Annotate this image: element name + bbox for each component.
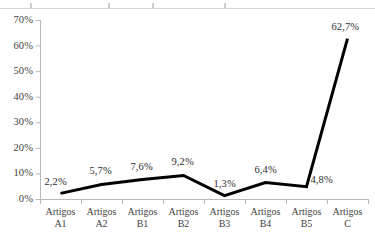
y-axis-tick-label: 50% (0, 65, 33, 76)
x-axis-category-label: ArtigosB4 (245, 206, 286, 229)
data-point-label: 4,8% (311, 174, 333, 185)
x-axis-category-label: ArtigosB2 (163, 206, 204, 229)
x-axis-category-label: ArtigosB5 (286, 206, 327, 229)
x-axis-category-label: ArtigosA1 (40, 206, 81, 229)
data-point-label: 9,2% (172, 156, 194, 167)
plot-area (0, 0, 375, 236)
line-chart: 0%10%20%30%40%50%60%70% ArtigosA1Artigos… (0, 0, 375, 236)
y-axis-ticks (36, 21, 40, 200)
data-point-label: 2,2% (45, 176, 67, 187)
data-point-label: 1,3% (214, 178, 236, 189)
x-axis-category-label: ArtigosB1 (122, 206, 163, 229)
data-point-label: 62,7% (332, 21, 360, 32)
y-axis-tick-label: 40% (0, 91, 33, 102)
y-axis-tick-label: 20% (0, 142, 33, 153)
y-axis-tick-label: 0% (0, 193, 33, 204)
x-axis-category-label: ArtigosA2 (81, 206, 122, 229)
y-axis-tick-label: 60% (0, 40, 33, 51)
y-axis-tick-label: 10% (0, 167, 33, 178)
y-axis-tick-label: 30% (0, 116, 33, 127)
x-axis-category-label: ArtigosB3 (204, 206, 245, 229)
x-axis-category-label: ArtigosC (327, 206, 368, 229)
y-axis-tick-label: 70% (0, 14, 33, 25)
data-point-label: 6,4% (255, 164, 277, 175)
data-point-label: 7,6% (131, 161, 153, 172)
data-point-label: 5,7% (90, 165, 112, 176)
